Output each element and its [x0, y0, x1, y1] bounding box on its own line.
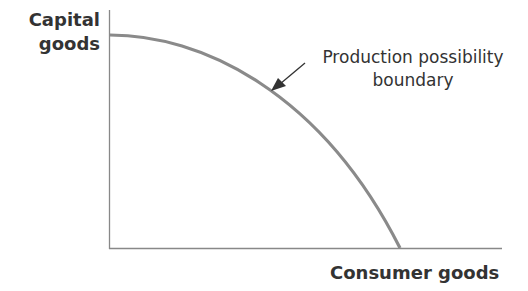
- ppb-diagram: [0, 0, 528, 291]
- ppb-annotation: Production possibility boundary: [313, 46, 513, 92]
- annotation-line1: Production possibility: [313, 46, 513, 69]
- annotation-line2: boundary: [313, 69, 513, 92]
- annotation-arrow-icon: [271, 63, 305, 91]
- x-axis-label: Consumer goods: [330, 262, 499, 283]
